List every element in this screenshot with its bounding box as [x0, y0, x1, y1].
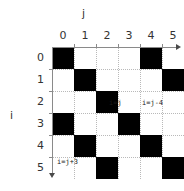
column-tick-label-4: 4 — [140, 30, 162, 41]
horizontal-gridline — [52, 91, 184, 92]
annotation-lower-diagonal: i=j+3 — [57, 159, 78, 166]
y-axis-tick — [49, 157, 53, 158]
arrow-right-icon — [176, 44, 181, 50]
matrix-cell-filled — [162, 69, 184, 91]
matrix-cell-filled — [162, 157, 184, 179]
arrow-down-icon — [49, 173, 55, 178]
x-axis-caption: j — [82, 8, 85, 19]
row-tick-label-3: 3 — [30, 118, 44, 129]
column-tick-label-2: 2 — [96, 30, 118, 41]
y-axis-tick — [49, 69, 53, 70]
annotation-upper-diagonal: i=j-4 — [142, 100, 163, 107]
column-tick-label-0: 0 — [52, 30, 74, 41]
row-tick-label-0: 0 — [30, 52, 44, 63]
row-tick-label-1: 1 — [30, 74, 44, 85]
y-axis-caption: i — [10, 110, 13, 121]
matrix-cell-filled — [140, 135, 162, 157]
x-axis-tick — [118, 44, 119, 48]
x-axis-line — [52, 47, 178, 48]
x-axis-tick — [162, 44, 163, 48]
column-tick-label-3: 3 — [118, 30, 140, 41]
annotation-main-diagonal: i=j — [109, 100, 122, 107]
y-axis-tick — [49, 113, 53, 114]
x-axis-tick — [140, 44, 141, 48]
column-tick-label-5: 5 — [162, 30, 184, 41]
matrix-cell-filled — [52, 113, 74, 135]
matrix-cell-filled — [52, 47, 74, 69]
x-axis-tick — [74, 44, 75, 48]
matrix-cell-filled — [140, 47, 162, 69]
matrix-cell-filled — [96, 157, 118, 179]
matrix-diagonal-figure: j i 012345 012345 i=j i=j-4 i=j+3 — [0, 0, 184, 191]
column-tick-label-1: 1 — [74, 30, 96, 41]
horizontal-gridline — [52, 135, 184, 136]
x-axis-tick — [96, 44, 97, 48]
y-axis-tick — [49, 91, 53, 92]
y-axis-tick — [49, 135, 53, 136]
row-tick-label-2: 2 — [30, 96, 44, 107]
row-tick-label-5: 5 — [30, 162, 44, 173]
row-tick-label-4: 4 — [30, 140, 44, 151]
y-axis-line — [52, 47, 53, 173]
matrix-cell-filled — [74, 69, 96, 91]
matrix-cell-filled — [118, 113, 140, 135]
matrix-cell-filled — [74, 135, 96, 157]
